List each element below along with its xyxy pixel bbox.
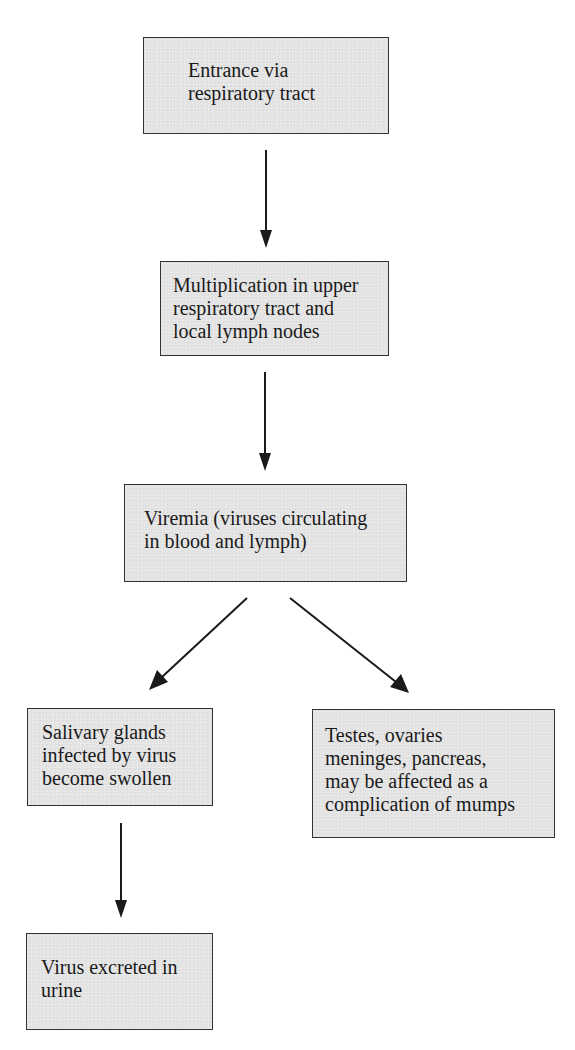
node-entrance: Entrance via respiratory tract	[143, 37, 389, 134]
node-complications-line-1: Testes, ovaries	[325, 724, 544, 747]
node-salivary-line-3: become swollen	[42, 767, 202, 790]
node-excreted-line-1: Virus excreted in	[41, 956, 202, 979]
node-excreted-line-2: urine	[41, 979, 202, 1002]
arrow-viremia-to-complications	[290, 598, 409, 693]
node-entrance-line-1: Entrance via	[188, 59, 378, 82]
node-multiplication-line-2: respiratory tract and	[173, 297, 378, 320]
arrow-entrance-to-multiplication	[260, 150, 272, 248]
arrow-multiplication-to-viremia	[259, 372, 271, 471]
node-multiplication-line-1: Multiplication in upper	[173, 274, 378, 297]
node-viremia-line-2: in blood and lymph)	[144, 530, 396, 553]
node-complications: Testes, ovaries meninges, pancreas, may …	[312, 709, 555, 838]
node-entrance-line-2: respiratory tract	[188, 82, 378, 105]
node-multiplication: Multiplication in upper respiratory trac…	[160, 261, 389, 356]
arrow-viremia-to-salivary	[149, 598, 247, 690]
node-excreted: Virus excreted in urine	[26, 933, 213, 1030]
node-complications-line-2: meninges, pancreas,	[325, 747, 544, 770]
node-multiplication-line-3: local lymph nodes	[173, 320, 378, 343]
node-salivary-line-2: infected by virus	[42, 744, 202, 767]
node-complications-line-3: may be affected as a	[325, 770, 544, 793]
arrow-salivary-to-excreted	[115, 823, 127, 918]
node-salivary-line-1: Salivary glands	[42, 721, 202, 744]
node-complications-line-4: complication of mumps	[325, 793, 544, 816]
node-salivary: Salivary glands infected by virus become…	[27, 708, 213, 806]
node-viremia-line-1: Viremia (viruses circulating	[144, 507, 396, 530]
node-viremia: Viremia (viruses circulating in blood an…	[124, 484, 407, 582]
